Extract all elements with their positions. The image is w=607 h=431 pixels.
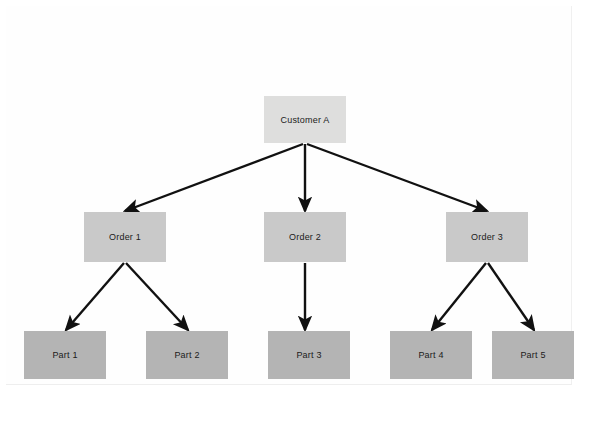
diagram-canvas: Customer AOrder 1Order 2Order 3Part 1Par… bbox=[0, 0, 607, 431]
node-part-1[interactable]: Part 1 bbox=[24, 331, 106, 379]
edge-order-1-to-part-2 bbox=[126, 263, 188, 330]
edge-customer-a-to-order-1 bbox=[125, 144, 303, 211]
node-label: Customer A bbox=[280, 115, 329, 125]
node-customer-a[interactable]: Customer A bbox=[264, 96, 346, 143]
edge-customer-a-to-order-3 bbox=[307, 144, 487, 211]
node-label: Order 2 bbox=[289, 232, 321, 242]
node-label: Part 1 bbox=[52, 350, 77, 360]
node-label: Part 2 bbox=[174, 350, 199, 360]
node-label: Order 3 bbox=[471, 232, 503, 242]
node-label: Part 4 bbox=[418, 350, 443, 360]
node-part-4[interactable]: Part 4 bbox=[390, 331, 472, 379]
edge-order-1-to-part-1 bbox=[66, 263, 124, 330]
edge-order-3-to-part-4 bbox=[432, 263, 486, 330]
node-part-5[interactable]: Part 5 bbox=[492, 331, 574, 379]
node-order-1[interactable]: Order 1 bbox=[84, 212, 166, 262]
node-part-3[interactable]: Part 3 bbox=[268, 331, 350, 379]
node-label: Order 1 bbox=[109, 232, 141, 242]
node-order-2[interactable]: Order 2 bbox=[264, 212, 346, 262]
edge-order-3-to-part-5 bbox=[488, 263, 534, 330]
node-label: Part 3 bbox=[296, 350, 321, 360]
node-label: Part 5 bbox=[520, 350, 545, 360]
node-part-2[interactable]: Part 2 bbox=[146, 331, 228, 379]
node-order-3[interactable]: Order 3 bbox=[446, 212, 528, 262]
